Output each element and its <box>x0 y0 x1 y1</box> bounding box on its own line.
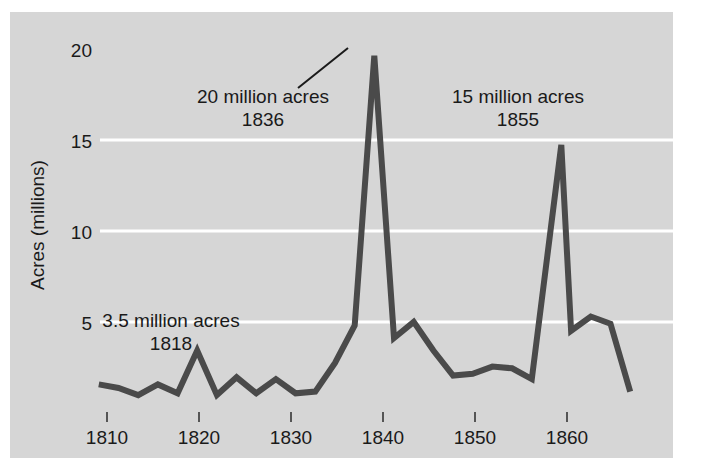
x-tick-label-1830: 1830 <box>270 427 312 448</box>
annotation-1818-line1: 3.5 million acres <box>102 310 239 331</box>
chart-figure: 20 15 10 5 Acres (millions) 1810 1820 18… <box>0 0 702 476</box>
annotation-1836-leader-line <box>298 48 348 88</box>
y-tick-label-20: 20 <box>71 40 92 61</box>
y-axis-title: Acres (millions) <box>27 160 48 290</box>
x-axis-tick-labels: 1810 1820 1830 1840 1850 1860 <box>86 427 588 448</box>
annotation-1836: 20 million acres 1836 <box>197 48 348 130</box>
annotation-1855: 15 million acres 1855 <box>452 86 584 130</box>
x-tick-label-1860: 1860 <box>546 427 588 448</box>
annotation-1836-line1: 20 million acres <box>197 86 329 107</box>
line-chart: 20 15 10 5 Acres (millions) 1810 1820 18… <box>0 0 702 476</box>
annotation-1818-line2: 1818 <box>150 333 192 354</box>
x-axis-ticks <box>107 412 567 422</box>
annotation-1818: 3.5 million acres 1818 <box>102 310 239 354</box>
y-axis-tick-labels: 20 15 10 5 <box>71 40 92 334</box>
x-tick-label-1840: 1840 <box>362 427 404 448</box>
y-tick-label-10: 10 <box>71 222 92 243</box>
annotation-1836-line2: 1836 <box>242 109 284 130</box>
x-tick-label-1810: 1810 <box>86 427 128 448</box>
x-tick-label-1820: 1820 <box>178 427 220 448</box>
annotation-1855-line1: 15 million acres <box>452 86 584 107</box>
x-tick-label-1850: 1850 <box>454 427 496 448</box>
y-tick-label-5: 5 <box>81 313 92 334</box>
annotation-1855-line2: 1855 <box>497 109 539 130</box>
y-tick-label-15: 15 <box>71 131 92 152</box>
